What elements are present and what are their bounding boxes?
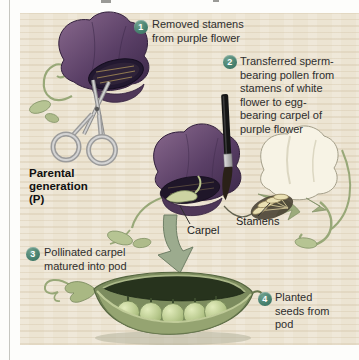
step-3-text: Pollinated carpel matured into pod: [44, 245, 127, 273]
carpel-label: Carpel: [187, 224, 219, 236]
step-2-text: Transferred sperm- bearing pollen from s…: [240, 55, 334, 136]
white-flower: [248, 126, 338, 224]
step-1-text: Removed stamens from purple flower: [152, 17, 244, 45]
stamens-label: Stamens: [236, 215, 279, 227]
step-4-badge: 4: [258, 292, 272, 306]
leaf: [44, 112, 60, 124]
leaf: [294, 237, 317, 250]
scissors-icon: [53, 80, 116, 164]
parental-generation-label: Parental generation (P): [29, 167, 88, 206]
step-1-badge: 1: [134, 20, 148, 34]
step-3-badge: 3: [26, 247, 40, 261]
leaf: [132, 237, 151, 248]
pea-pod: [45, 272, 262, 345]
textbook-figure-page: 1 Removed stamens from purple flower 2 T…: [0, 0, 359, 360]
purple-flower-cut: [28, 12, 149, 124]
step-2-badge: 2: [223, 55, 237, 69]
step-4-text: Planted seeds from pod: [275, 291, 329, 332]
